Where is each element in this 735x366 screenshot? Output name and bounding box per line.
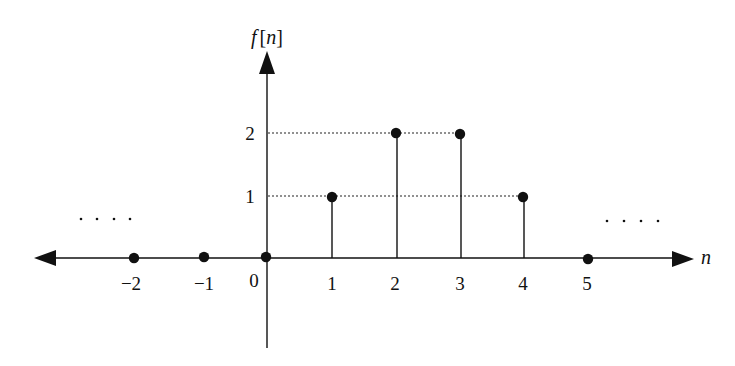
marker-n-minus1 xyxy=(199,252,209,262)
x-tick-label-5: 5 xyxy=(582,273,592,294)
guide-lines xyxy=(268,133,524,196)
y-axis xyxy=(259,51,275,348)
stem-plot: 2 1 −2 −1 0 1 2 3 4 5 f[n] n xyxy=(0,0,735,366)
x-tick-label-1: 1 xyxy=(327,273,337,294)
marker-n3 xyxy=(455,129,465,139)
x-axis-left-arrow-icon xyxy=(34,250,56,266)
ellipsis-left xyxy=(80,218,132,221)
y-axis-label: f[n] xyxy=(251,26,283,49)
marker-n1 xyxy=(327,192,337,202)
x-tick-labels: −2 −1 0 1 2 3 4 5 xyxy=(121,270,592,294)
marker-n0 xyxy=(261,252,271,262)
marker-n5 xyxy=(583,254,593,264)
marker-n-minus2 xyxy=(129,253,139,263)
y-axis-label-n: n xyxy=(266,26,276,48)
marker-n2 xyxy=(391,128,401,138)
y-axis-label-open-bracket: [ xyxy=(260,26,267,48)
x-tick-label-4: 4 xyxy=(518,273,528,294)
x-axis-right-arrow-icon xyxy=(672,251,694,267)
y-tick-label-1: 1 xyxy=(245,186,255,207)
y-axis-label-f: f xyxy=(251,26,259,49)
marker-n4 xyxy=(518,192,528,202)
x-tick-label-minus1: −1 xyxy=(194,273,214,294)
x-tick-label-2: 2 xyxy=(390,273,400,294)
y-axis-up-arrow-icon xyxy=(259,51,275,74)
x-tick-label-0: 0 xyxy=(249,270,259,291)
x-tick-label-minus2: −2 xyxy=(121,273,141,294)
x-axis-label: n xyxy=(701,246,711,268)
x-tick-label-3: 3 xyxy=(455,273,465,294)
y-axis-label-close-bracket: ] xyxy=(276,26,283,48)
y-tick-label-2: 2 xyxy=(245,123,255,144)
ellipsis-right xyxy=(606,220,660,223)
